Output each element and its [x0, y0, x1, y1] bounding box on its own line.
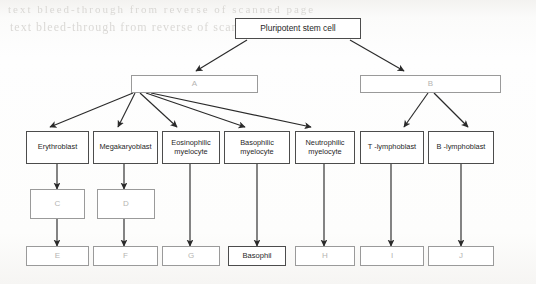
edge-a-to-megakaryoblast — [118, 93, 135, 127]
node-t-lymphoblast[interactable]: T -lymphoblast — [360, 131, 424, 164]
edge-root-to-a — [196, 40, 247, 71]
node-pluripotent-stem-cell[interactable]: Pluripotent stem cell — [235, 18, 361, 39]
node-label: Neutrophilic myelocyte — [303, 139, 346, 156]
node-label: Pluripotent stem cell — [258, 24, 337, 34]
node-label: Megakaryoblast — [97, 143, 153, 152]
edge-a-to-basophilic-myelocyte — [146, 93, 245, 127]
node-label: Basophilic myelocyte — [238, 139, 276, 156]
node-label: T -lymphoblast — [366, 143, 418, 152]
node-label: Basophil — [240, 252, 273, 261]
node-label: D — [121, 199, 131, 208]
node-label-line2: myelocyte — [308, 147, 341, 156]
node-label: C — [53, 199, 63, 208]
edge-a-to-neutrophilic-myelocyte — [151, 93, 311, 127]
node-e[interactable]: E — [26, 246, 89, 266]
node-a[interactable]: A — [131, 75, 258, 93]
flowchart-canvas: text bleed-through from reverse of scann… — [0, 0, 536, 284]
node-label: B -lymphoblast — [435, 143, 488, 152]
node-label: H — [320, 251, 330, 260]
bleed-through-text-top: text bleed-through from reverse of scann… — [8, 3, 315, 15]
node-label: B — [426, 79, 435, 88]
node-label: E — [53, 251, 62, 260]
node-b[interactable]: B — [360, 75, 501, 93]
node-i[interactable]: I — [360, 246, 424, 266]
node-label: J — [457, 251, 465, 260]
node-label: G — [186, 251, 196, 260]
node-neutrophilic-myelocyte[interactable]: Neutrophilic myelocyte — [295, 131, 355, 164]
edge-root-to-b — [350, 40, 404, 71]
node-basophil[interactable]: Basophil — [228, 246, 286, 266]
node-label: Eosinophilic myelocyte — [169, 139, 212, 156]
node-label: Erythroblast — [36, 143, 79, 152]
node-basophilic-myelocyte[interactable]: Basophilic myelocyte — [224, 131, 290, 164]
node-j[interactable]: J — [428, 246, 494, 266]
node-label: A — [190, 79, 199, 88]
edge-a-to-eosinophilic-myelocyte — [140, 93, 177, 127]
node-f[interactable]: F — [93, 246, 158, 266]
node-h[interactable]: H — [295, 246, 355, 266]
node-label-line2: myelocyte — [240, 147, 273, 156]
node-g[interactable]: G — [162, 246, 220, 266]
edge-a-to-erythroblast — [50, 93, 133, 127]
node-label: I — [389, 251, 395, 260]
edge-b-to-b-lymphoblast — [434, 93, 468, 127]
node-megakaryoblast[interactable]: Megakaryoblast — [93, 131, 158, 164]
node-erythroblast[interactable]: Erythroblast — [26, 131, 89, 164]
node-label-line2: myelocyte — [174, 147, 207, 156]
node-label: F — [121, 251, 130, 260]
node-d[interactable]: D — [97, 189, 155, 219]
node-eosinophilic-myelocyte[interactable]: Eosinophilic myelocyte — [162, 131, 220, 164]
edge-b-to-t-lymphoblast — [404, 93, 428, 127]
node-c[interactable]: C — [30, 189, 85, 219]
node-b-lymphoblast[interactable]: B -lymphoblast — [428, 131, 494, 164]
